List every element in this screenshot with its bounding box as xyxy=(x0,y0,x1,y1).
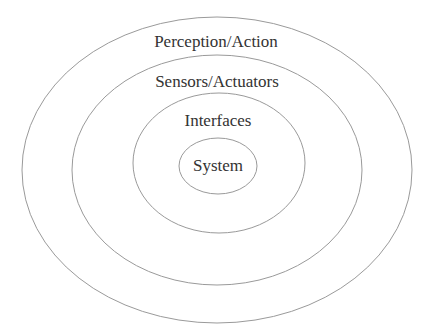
concentric-layers-diagram: Perception/Action Sensors/Actuators Inte… xyxy=(0,0,428,336)
layer-system: System xyxy=(179,138,257,194)
label-system: System xyxy=(193,156,243,175)
diagram-canvas: Perception/Action Sensors/Actuators Inte… xyxy=(0,0,428,336)
label-interfaces: Interfaces xyxy=(184,111,251,130)
label-perception-action: Perception/Action xyxy=(154,32,278,51)
label-sensors-actuators: Sensors/Actuators xyxy=(155,72,279,91)
